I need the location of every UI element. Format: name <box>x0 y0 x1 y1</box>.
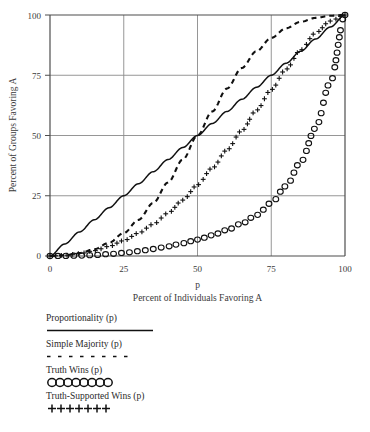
circle-marker <box>134 249 140 254</box>
plus-marker <box>110 243 115 248</box>
circle-marker <box>273 197 279 202</box>
plus-marker <box>227 146 232 151</box>
plus-marker <box>237 130 242 135</box>
plus-marker <box>230 141 235 146</box>
plus-marker <box>180 198 185 203</box>
plus-marker <box>247 117 252 122</box>
x-tick-label-50: 50 <box>193 264 203 274</box>
y-axis-title: Percent of Groups Favoring A <box>8 78 18 193</box>
circle-marker <box>323 90 329 95</box>
plus-marker <box>288 62 293 67</box>
x-tick-label-75: 75 <box>267 264 277 274</box>
plus-marker <box>204 171 209 176</box>
x-tick-label-25: 25 <box>119 264 129 274</box>
circle-marker <box>188 239 194 244</box>
circle-marker <box>166 244 172 249</box>
legend-sample-dashed-line <box>46 351 154 362</box>
circle-marker <box>127 250 133 255</box>
y-tick-label-50: 50 <box>32 131 42 141</box>
circle-marker <box>332 65 338 70</box>
legend-entry-truth-wins: Truth Wins (p) <box>46 364 346 388</box>
circle-marker <box>222 228 228 233</box>
circle-marker <box>330 76 336 81</box>
legend-label-truth-wins: Truth Wins (p) <box>46 364 346 377</box>
x-axis-title: Percent of Individuals Favoring A <box>133 293 262 303</box>
plus-marker <box>119 239 124 244</box>
circle-marker <box>150 246 156 251</box>
legend-label-proportionality: Proportionality (p) <box>46 312 346 325</box>
circle-marker <box>335 42 341 47</box>
plus-marker <box>311 32 316 37</box>
plus-marker <box>320 25 325 30</box>
plus-marker <box>144 226 149 231</box>
circle-marker <box>95 252 101 257</box>
plus-marker <box>222 149 227 154</box>
plus-marker <box>219 154 224 159</box>
plus-marker <box>154 220 159 225</box>
y-tick-label-75: 75 <box>32 71 42 81</box>
plus-marker <box>176 201 181 206</box>
plus-marker <box>169 209 174 214</box>
circle-marker <box>325 83 331 88</box>
legend-label-simple-majority: Simple Majority (p) <box>46 338 346 351</box>
plus-marker <box>134 231 139 236</box>
circle-marker <box>336 35 342 40</box>
plus-marker <box>255 107 260 112</box>
circle-markers-icon <box>46 377 154 388</box>
legend-label-truth-supported-wins: Truth-Supported Wins (p) <box>46 390 346 403</box>
circle-marker <box>215 231 221 236</box>
circle-marker <box>318 111 324 116</box>
x-axis-variable: p <box>195 280 200 290</box>
solid-line-icon <box>46 325 154 336</box>
x-tick-label-0: 0 <box>48 264 53 274</box>
plus-marker <box>188 189 193 194</box>
circle-marker <box>338 28 344 33</box>
legend-entry-simple-majority: Simple Majority (p) <box>46 338 346 362</box>
plus-marker <box>185 194 190 199</box>
plus-marker <box>163 211 168 216</box>
circle-marker <box>260 207 266 212</box>
legend-entry-truth-supported-wins: Truth-Supported Wins (p) <box>46 390 346 414</box>
circle-marker <box>242 220 248 225</box>
plus-marker <box>259 103 264 108</box>
plus-marker <box>99 246 104 251</box>
plus-marker <box>328 19 333 24</box>
plus-marker <box>265 90 270 95</box>
plus-marker <box>280 70 285 75</box>
circle-marker <box>304 148 310 153</box>
circle-marker <box>311 126 317 131</box>
circle-marker <box>229 226 235 231</box>
plus-marker <box>159 216 164 221</box>
circle-marker <box>288 178 294 183</box>
dashed-line-icon <box>46 351 154 362</box>
plus-marker <box>323 21 328 26</box>
plus-marker <box>201 177 206 182</box>
legend-sample-solid-line <box>46 325 154 336</box>
circle-marker <box>334 50 340 55</box>
plus-marker <box>212 164 217 169</box>
plus-marker <box>277 76 282 81</box>
plus-markers-icon <box>46 403 154 414</box>
chart-legend: Proportionality (p) Simple Majority (p) … <box>46 312 346 416</box>
plus-marker <box>172 205 177 210</box>
plus-marker <box>208 167 213 172</box>
plus-marker <box>273 83 278 88</box>
plus-marker <box>262 96 267 101</box>
plus-marker <box>192 185 197 190</box>
plus-marker <box>270 87 275 92</box>
circle-marker <box>181 241 187 246</box>
circle-marker <box>306 141 312 146</box>
circle-marker <box>277 189 283 194</box>
plus-marker <box>125 237 130 242</box>
plus-marker <box>140 230 145 235</box>
chart-svg: 0 25 50 75 100 0 25 50 75 100 p Percent … <box>0 0 370 305</box>
circle-marker <box>333 58 339 63</box>
y-tick-label-0: 0 <box>37 251 42 261</box>
circle-marker <box>321 100 327 105</box>
circle-marker <box>158 245 164 250</box>
circle-marker <box>255 212 261 217</box>
legend-entry-proportionality: Proportionality (p) <box>46 312 346 336</box>
circle-marker <box>282 184 288 189</box>
plus-marker <box>317 29 322 34</box>
plus-marker <box>251 111 256 116</box>
